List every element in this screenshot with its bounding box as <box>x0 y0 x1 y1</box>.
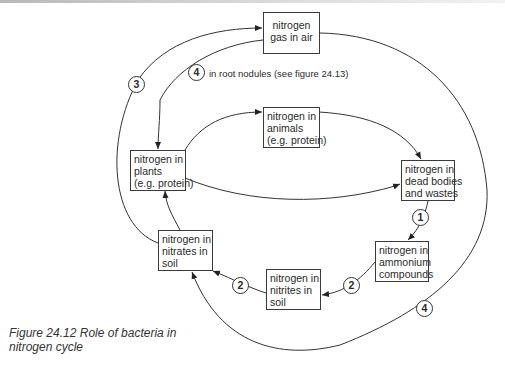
node-line: nitrates in <box>162 245 209 257</box>
arrow-animals-to-dead <box>319 112 421 159</box>
node-line: animals <box>267 122 316 134</box>
node-nitrogen-in-nitrates: nitrogen in nitrates in soil <box>158 230 213 271</box>
node-line: nitrogen in <box>267 110 316 122</box>
node-line: (e.g. protein) <box>267 134 316 146</box>
caption-line-2: nitrogen cycle <box>9 340 176 354</box>
node-line: dead bodies <box>405 175 451 187</box>
caption-line-1: Figure 24.12 Role of bacteria in <box>9 326 176 340</box>
arrow-nitrates-to-plants <box>165 191 180 230</box>
node-line: (e.g. protein) <box>134 177 182 189</box>
node-line: nitrogen in <box>270 272 317 284</box>
node-nitrogen-in-ammonium: nitrogen in ammonium compounds <box>375 241 429 282</box>
badge-step-2-nitrites: 2 <box>232 277 249 294</box>
arrow-denitrification <box>117 28 262 243</box>
badge-step-1: 1 <box>412 209 429 226</box>
node-nitrogen-gas-in-air: nitrogen gas in air <box>263 12 320 54</box>
node-line: compounds <box>379 268 425 280</box>
badge-step-4-root-nodules: 4 <box>188 64 205 81</box>
node-line: nitrogen in <box>162 233 209 245</box>
arrow-plants-to-dead <box>185 178 400 199</box>
figure-caption: Figure 24.12 Role of bacteria in nitroge… <box>9 326 176 354</box>
node-line: nitrogen <box>267 19 316 31</box>
node-nitrogen-in-plants: nitrogen in plants (e.g. protein) <box>130 150 186 191</box>
node-line: plants <box>134 165 182 177</box>
badge-step-4-soil: 4 <box>416 300 433 317</box>
node-line: soil <box>270 296 317 308</box>
badge-step-3: 3 <box>128 76 145 93</box>
arrow-plants-to-animals <box>185 112 262 150</box>
node-line: gas in air <box>267 31 316 43</box>
node-line: nitrites in <box>270 284 317 296</box>
node-nitrogen-in-animals: nitrogen in animals (e.g. protein) <box>263 107 320 148</box>
node-line: nitrogen in <box>134 153 182 165</box>
node-nitrogen-in-dead-bodies: nitrogen in dead bodies and wastes <box>401 160 455 201</box>
node-line: nitrogen in <box>405 163 451 175</box>
node-line: soil <box>162 257 209 269</box>
node-line: nitrogen in <box>379 244 425 256</box>
badge-step-2-ammonium: 2 <box>343 277 360 294</box>
node-line: ammonium <box>379 256 425 268</box>
root-nodules-note: in root nodules (see figure 24.13) <box>209 68 348 79</box>
node-nitrogen-in-nitrites: nitrogen in nitrites in soil <box>266 269 321 310</box>
node-line: and wastes <box>405 187 451 199</box>
arrow-root-nodules <box>158 40 263 149</box>
